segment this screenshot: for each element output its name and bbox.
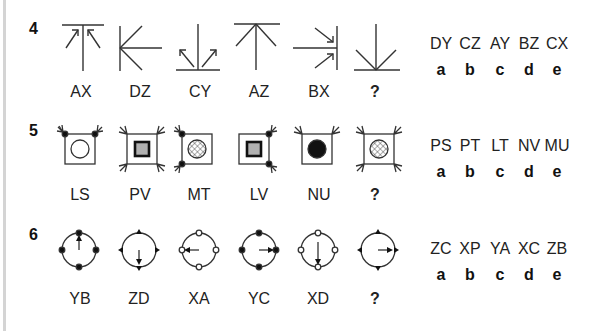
figure-label: XA [169,290,229,308]
figure-unknown [353,222,413,282]
right-bar-inward-arrows-icon [293,18,353,78]
answer-option-code[interactable]: MU [537,137,577,155]
figure-label: AZ [229,83,289,101]
figure-ax [54,18,114,78]
figure-nu [292,120,352,180]
figure-zd [114,222,174,282]
figure-yb [54,222,114,282]
figure-label: YC [229,290,289,308]
question-number: 5 [29,122,38,140]
figure-unknown [352,120,412,180]
circle-white-dots-arrow-down-icon [293,222,353,282]
figure-label: AX [51,83,111,101]
figure-cy [172,18,232,78]
question-number: 4 [29,20,38,38]
figure-label: XD [288,290,348,308]
figure-xd [293,222,353,282]
square-circle-top-dots-icon [55,120,115,180]
figure-label: CY [170,83,230,101]
figure-unknown [352,18,412,78]
circle-triangles-arrow-right-icon [353,222,413,282]
figure-label: LV [229,186,289,204]
square-gray-square-right-dots-icon [233,120,293,180]
answer-option-code[interactable]: ZB [537,240,577,258]
figure-label-question: ? [345,290,405,308]
circle-black-dots-arrow-up-icon [54,222,114,282]
square-hatched-circle-four-arrows-icon [352,120,412,180]
circle-triangles-arrow-down-icon [114,222,174,282]
answer-option-code[interactable]: CX [537,35,577,53]
top-bar-inward-arrows-icon [54,18,114,78]
figure-pv [115,120,175,180]
left-bar-fan-icon [112,18,172,78]
figure-dz [112,18,172,78]
figure-yc [234,222,294,282]
answer-option-letter[interactable]: e [537,61,577,79]
top-bar-fan-icon [232,18,292,78]
bottom-bar-outward-arrows-icon [172,18,232,78]
figure-label: BX [289,83,349,101]
bottom-bar-fan-icon [352,18,412,78]
figure-label: PV [110,186,170,204]
figure-label-question: ? [345,186,405,204]
figure-label: DZ [110,83,170,101]
square-hatched-circle-left-dots-icon [172,120,232,180]
figure-label: ZD [109,290,169,308]
page-margin-rule [3,0,6,331]
question-number: 6 [29,226,38,244]
square-gray-square-four-arrows-icon [115,120,175,180]
answer-option-letter[interactable]: e [537,163,577,181]
figure-label-question: ? [345,83,405,101]
figure-lv [233,120,293,180]
figure-label: YB [50,290,110,308]
figure-az [232,18,292,78]
square-black-circle-top-arrows-icon [292,120,352,180]
figure-bx [293,18,353,78]
figure-label: MT [169,186,229,204]
figure-xa [174,222,234,282]
figure-label: NU [289,186,349,204]
figure-mt [172,120,232,180]
circle-black-dots-arrow-right-icon [234,222,294,282]
answer-option-letter[interactable]: e [537,266,577,284]
figure-label: LS [50,186,110,204]
circle-white-dots-arrow-left-icon [174,222,234,282]
figure-ls [55,120,115,180]
